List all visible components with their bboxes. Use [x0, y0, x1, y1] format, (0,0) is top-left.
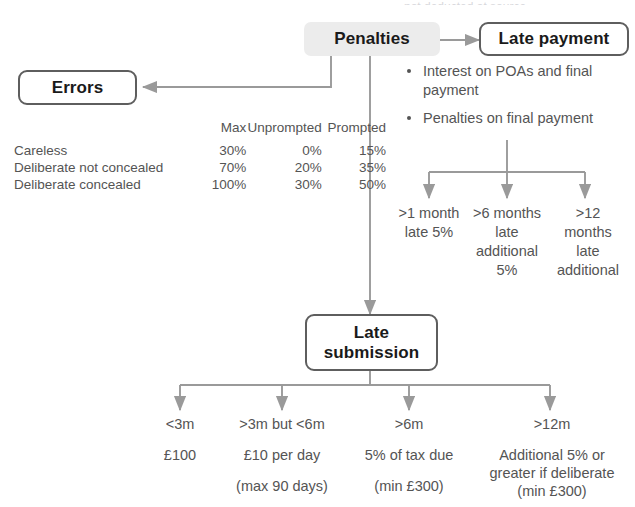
branch-line: >6 months: [463, 204, 551, 223]
node-late-payment[interactable]: Late payment: [479, 22, 629, 56]
table-cell-unprompted: 0%: [246, 142, 322, 159]
branch-line: >1 month: [389, 204, 469, 223]
list-item: Interest on POAs and final payment: [404, 62, 629, 100]
branch-line: 5%: [463, 261, 551, 280]
table-cell-max: 70%: [194, 159, 246, 176]
table-row: Deliberate concealed 100% 30% 50%: [14, 176, 386, 193]
node-penalties-label: Penalties: [334, 29, 410, 48]
node-late-submission-label-line1: Late: [354, 323, 389, 342]
branch-note: (min £300): [344, 477, 474, 496]
branch-line: late: [463, 223, 551, 242]
flowchart-canvas: not deducted at source: [0, 0, 635, 507]
cut-off-header-text: not deducted at source: [404, 0, 635, 5]
table-header-row: Max Unprompted Prompted: [14, 120, 386, 142]
table-cell-label: Deliberate concealed: [14, 176, 194, 193]
branch-period: >3m but <6m: [218, 415, 346, 434]
node-late-submission-label-line2: submission: [324, 343, 419, 362]
table-row: Deliberate not concealed 70% 20% 35%: [14, 159, 386, 176]
node-late-submission[interactable]: Late submission: [305, 314, 438, 371]
table-header-cell: Max: [194, 120, 246, 142]
table-cell-label: Careless: [14, 142, 194, 159]
table-cell-prompted: 50%: [322, 176, 386, 193]
branch-amount: Additional 5% or greater if deliberate: [476, 446, 628, 483]
bullet-dot-icon: [407, 69, 411, 73]
branch-period: >6m: [344, 415, 474, 434]
table-header-cell: Prompted: [322, 120, 386, 142]
branch-period: >12m: [476, 415, 628, 434]
branch-line: late: [545, 242, 631, 261]
table-header-cell: Unprompted: [246, 120, 322, 142]
branch-line: additional: [545, 261, 631, 280]
late-payment-branch-3: >12 months late additional: [545, 204, 631, 279]
branch-line: additional: [463, 242, 551, 261]
late-submission-branch-3: >6m 5% of tax due (min £300): [344, 415, 474, 496]
branch-period: <3m: [140, 415, 220, 434]
late-submission-branch-4: >12m Additional 5% or greater if deliber…: [476, 415, 628, 501]
bullet-dot-icon: [407, 116, 411, 120]
table-cell-label: Deliberate not concealed: [14, 159, 194, 176]
branch-note: (max 90 days): [218, 477, 346, 496]
branch-amount: £10 per day: [218, 446, 346, 465]
bullet-text: Interest on POAs and final payment: [423, 63, 592, 98]
node-errors-label: Errors: [52, 78, 104, 97]
branch-note: (min £300): [476, 482, 628, 501]
late-payment-branch-2: >6 months late additional 5%: [463, 204, 551, 279]
late-submission-branch-1: <3m £100: [140, 415, 220, 465]
branch-line: >12: [545, 204, 631, 223]
branch-line: months: [545, 223, 631, 242]
branch-line: late 5%: [389, 223, 469, 242]
node-late-payment-label: Late payment: [499, 29, 610, 48]
table-cell-max: 30%: [194, 142, 246, 159]
late-payment-branch-1: >1 month late 5%: [389, 204, 469, 242]
table-cell-max: 100%: [194, 176, 246, 193]
late-submission-branch-2: >3m but <6m £10 per day (max 90 days): [218, 415, 346, 496]
node-penalties[interactable]: Penalties: [304, 22, 440, 56]
late-payment-bullet-list: Interest on POAs and final payment Penal…: [404, 62, 629, 137]
table-cell-unprompted: 20%: [246, 159, 322, 176]
table-cell-prompted: 35%: [322, 159, 386, 176]
errors-penalty-rates-table: Max Unprompted Prompted Careless 30% 0% …: [14, 120, 386, 193]
node-errors[interactable]: Errors: [18, 70, 137, 105]
bullet-text: Penalties on final payment: [423, 110, 593, 126]
table-cell-unprompted: 30%: [246, 176, 322, 193]
table-cell-prompted: 15%: [322, 142, 386, 159]
branch-amount: 5% of tax due: [344, 446, 474, 465]
table-header-cell: [14, 120, 194, 142]
list-item: Penalties on final payment: [404, 109, 629, 128]
branch-amount: £100: [140, 446, 220, 465]
table-row: Careless 30% 0% 15%: [14, 142, 386, 159]
